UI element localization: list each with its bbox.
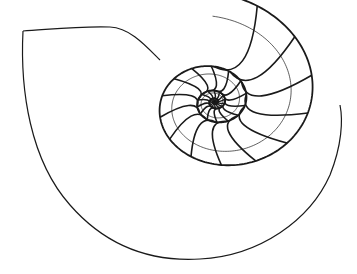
- septum-line: [170, 114, 207, 139]
- septum-line: [230, 37, 295, 81]
- shell-outer-outline: [23, 27, 342, 259]
- septum-line: [162, 94, 198, 106]
- septum-line: [214, 108, 219, 122]
- spiral-whorls: [160, 0, 313, 165]
- septum-line: [245, 95, 308, 116]
- spiral-line: [160, 0, 313, 165]
- septum-line: [208, 66, 216, 91]
- septum-line: [212, 121, 227, 165]
- shell-outline-path: [23, 27, 342, 259]
- septum-line: [220, 81, 241, 95]
- nautilus-illustration: Nautilus shell cross-section line drawin…: [0, 0, 357, 274]
- nautilus-shell-drawing: [0, 0, 357, 274]
- septum-line: [242, 75, 312, 96]
- septum-line: [213, 6, 257, 70]
